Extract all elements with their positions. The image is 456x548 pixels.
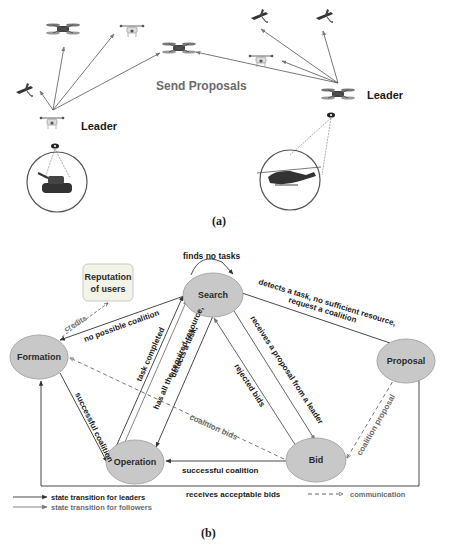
fixed-wing-uav-icon — [316, 9, 333, 23]
state-operation-label: Operation — [114, 457, 157, 467]
fixed-wing-uav-icon — [16, 83, 33, 97]
leader-drone-icon — [321, 88, 355, 99]
successful-coalition-label-bottom: successful coalition — [182, 466, 259, 475]
credits-label: credits — [63, 314, 89, 334]
caption-a: (a) — [212, 214, 226, 228]
state-bid-label: Bid — [309, 455, 324, 465]
task-completed-label: task completed — [135, 326, 167, 383]
panel-b: Reputation of users Search For — [10, 251, 435, 540]
eye-sensor-icon — [327, 112, 335, 117]
helicopter-icon — [257, 167, 321, 185]
rejected-bids-label: rejected bids — [232, 362, 267, 409]
coalition-proposal-label: coalition proposal — [355, 393, 397, 457]
coalition-bids-label: coalition bids — [188, 413, 239, 442]
drone-icon — [162, 42, 196, 53]
legend-communication-label: communication — [350, 490, 406, 499]
reputation-label: of users — [90, 284, 125, 294]
search-to-proposal-label: detects a task, no sufficient resource, — [257, 277, 397, 327]
state-proposal-label: Proposal — [387, 356, 426, 366]
eye-sensor-icon — [51, 143, 59, 148]
reputation-of-users-box — [83, 264, 133, 301]
coalition-proposal-arrow — [347, 376, 396, 458]
receives-acceptable-bids-label: receives acceptable bids — [186, 490, 281, 499]
leader-label-left: Leader — [81, 120, 118, 132]
leader-label-right: Leader — [367, 89, 404, 101]
caption-b: (b) — [201, 526, 216, 540]
bid-to-search-arrow — [214, 318, 296, 446]
leader-drone-icon — [40, 117, 65, 129]
state-search-label: Search — [198, 290, 228, 300]
tank-icon — [38, 173, 72, 193]
finds-no-tasks-label: finds no tasks — [183, 251, 240, 261]
send-proposals-label: Send Proposals — [156, 79, 247, 93]
legend-leaders-label: state transition for leaders — [51, 493, 145, 502]
successful-coalition-label-left: successful coalition — [73, 391, 115, 464]
legend-followers-label: state transition for followers — [51, 503, 152, 512]
drone-icon — [46, 23, 80, 34]
no-possible-coalition-label: no possible coalition — [83, 308, 161, 344]
state-formation-label: Formation — [17, 352, 61, 362]
drone-icon — [249, 55, 274, 67]
left-leader-proposal-arrows — [40, 34, 160, 110]
fixed-wing-uav-icon — [251, 9, 268, 23]
drone-icon — [120, 25, 145, 37]
reputation-label: Reputation — [85, 272, 132, 282]
panel-a: Send Proposals Leader Leader (a) — [16, 9, 404, 228]
receives-proposal-label: receives a proposal from a leader — [248, 314, 325, 426]
